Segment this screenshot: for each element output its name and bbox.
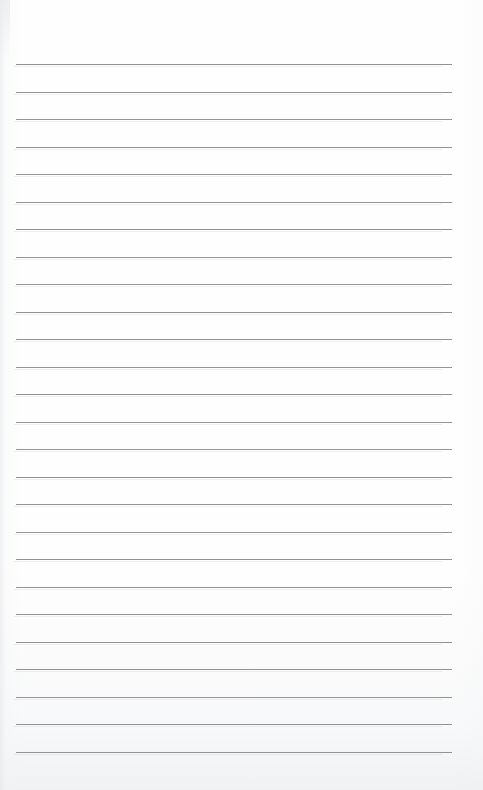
rule-line — [16, 422, 452, 423]
rule-line — [16, 92, 452, 93]
ruled-lines-layer — [0, 0, 483, 790]
rule-line — [16, 394, 452, 395]
rule-line — [16, 697, 452, 698]
rule-line — [16, 477, 452, 478]
rule-line — [16, 229, 452, 230]
rule-line — [16, 504, 452, 505]
rule-line — [16, 532, 452, 533]
rule-line — [16, 284, 452, 285]
rule-line — [16, 202, 452, 203]
rule-line — [16, 752, 452, 753]
rule-line — [16, 257, 452, 258]
rule-line — [16, 669, 452, 670]
rule-line — [16, 312, 452, 313]
rule-line — [16, 119, 452, 120]
rule-line — [16, 559, 452, 560]
notepad-page — [0, 0, 483, 790]
rule-line — [16, 339, 452, 340]
rule-line — [16, 147, 452, 148]
rule-line — [16, 449, 452, 450]
rule-line — [16, 614, 452, 615]
rule-line — [16, 174, 452, 175]
rule-line — [16, 587, 452, 588]
rule-line — [16, 64, 452, 65]
rule-line — [16, 642, 452, 643]
rule-line — [16, 724, 452, 725]
rule-line — [16, 367, 452, 368]
